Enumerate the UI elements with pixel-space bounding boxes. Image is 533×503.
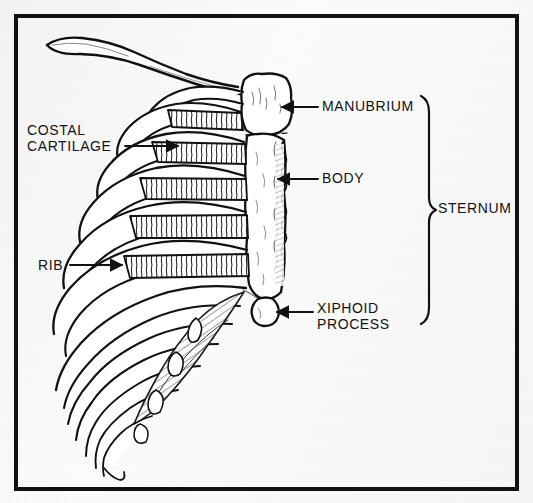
label-xiphoid-process-line2: PROCESS: [317, 316, 390, 332]
sternum: [241, 74, 292, 327]
label-costal-cartilage: COSTALCARTILAGE: [27, 122, 112, 154]
clavicle: [47, 38, 240, 94]
label-body: BODY: [322, 171, 364, 186]
label-sternum: STERNUM: [438, 201, 511, 216]
label-rib-text: RIB: [38, 257, 63, 273]
label-manubrium-text: MANUBRIUM: [322, 98, 414, 114]
xiphoid-process-outline: [252, 298, 279, 327]
label-sternum-text: STERNUM: [438, 200, 511, 216]
label-xiphoid-process: XIPHOIDPROCESS: [317, 300, 390, 332]
label-rib: RIB: [38, 258, 63, 273]
label-manubrium: MANUBRIUM: [322, 99, 414, 114]
sternum-brace: [421, 96, 436, 324]
label-xiphoid-process-line1: XIPHOID: [317, 300, 379, 316]
label-body-text: BODY: [322, 170, 364, 186]
label-costal-cartilage-line2: CARTILAGE: [27, 138, 112, 154]
label-costal-cartilage-line1: COSTAL: [27, 122, 86, 138]
ribcage-illustration: [0, 0, 533, 503]
figure-page: COSTALCARTILAGE RIB MANUBRIUM BODY XIPHO…: [0, 0, 533, 503]
